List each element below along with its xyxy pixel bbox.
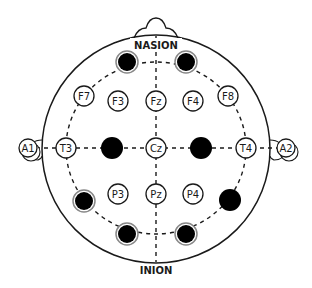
- electrode-cz[interactable]: Cz: [146, 138, 166, 158]
- electrode-t3[interactable]: T3: [56, 138, 76, 158]
- electrode-f8[interactable]: F8: [218, 86, 238, 106]
- electrode-f4[interactable]: F4: [183, 91, 203, 111]
- svg-text:Pz: Pz: [150, 189, 161, 200]
- active-electrode-t5[interactable]: [73, 190, 95, 212]
- active-electrode-c3[interactable]: [101, 137, 123, 159]
- electrode-pz[interactable]: Pz: [146, 184, 166, 204]
- svg-text:Fz: Fz: [150, 96, 161, 107]
- electrode-p3[interactable]: P3: [108, 184, 128, 204]
- active-electrode-fp1[interactable]: [116, 51, 138, 73]
- electrode-fz[interactable]: Fz: [146, 91, 166, 111]
- svg-text:P4: P4: [187, 189, 199, 200]
- nasion-label: NASION: [134, 40, 178, 51]
- svg-text:F7: F7: [78, 91, 90, 102]
- svg-text:A2: A2: [279, 143, 292, 154]
- svg-text:F4: F4: [187, 96, 199, 107]
- electrode-p4[interactable]: P4: [183, 184, 203, 204]
- electrode-f3[interactable]: F3: [108, 91, 128, 111]
- svg-text:T3: T3: [59, 143, 72, 154]
- active-electrode-o1[interactable]: [116, 223, 138, 245]
- svg-text:P3: P3: [112, 189, 124, 200]
- svg-text:F3: F3: [112, 96, 124, 107]
- electrode-t4[interactable]: T4: [236, 138, 256, 158]
- active-electrode-o2[interactable]: [175, 223, 197, 245]
- svg-text:A1: A1: [21, 143, 34, 154]
- inion-label: INION: [140, 265, 173, 276]
- active-electrode-fp2[interactable]: [175, 51, 197, 73]
- svg-text:Cz: Cz: [150, 143, 162, 154]
- active-electrode-t6[interactable]: [219, 189, 241, 211]
- eeg-electrode-diagram: NASION INION A1 A2 F7 F3 Fz F4 F8 T3 Cz: [0, 0, 312, 288]
- svg-text:F8: F8: [222, 91, 234, 102]
- electrode-f7[interactable]: F7: [74, 86, 94, 106]
- svg-text:T4: T4: [239, 143, 252, 154]
- active-electrode-c4[interactable]: [190, 137, 212, 159]
